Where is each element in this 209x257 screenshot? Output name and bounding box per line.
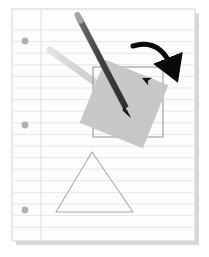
scene-canvas: Rotating a square on ruled notebook pape… [0,0,209,257]
scene-illustration [0,0,209,257]
